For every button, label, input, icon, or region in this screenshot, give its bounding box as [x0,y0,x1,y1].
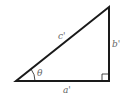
right-triangle-diagram: c' b' θ a' [0,0,140,101]
right-angle-marker [102,74,109,81]
label-hypotenuse: c' [58,31,66,41]
angle-arc-theta [31,69,35,81]
label-angle-theta: θ [37,68,43,78]
label-adjacent-side: a' [63,85,71,95]
triangle-outline [16,7,109,81]
label-opposite-side: b' [112,39,120,49]
